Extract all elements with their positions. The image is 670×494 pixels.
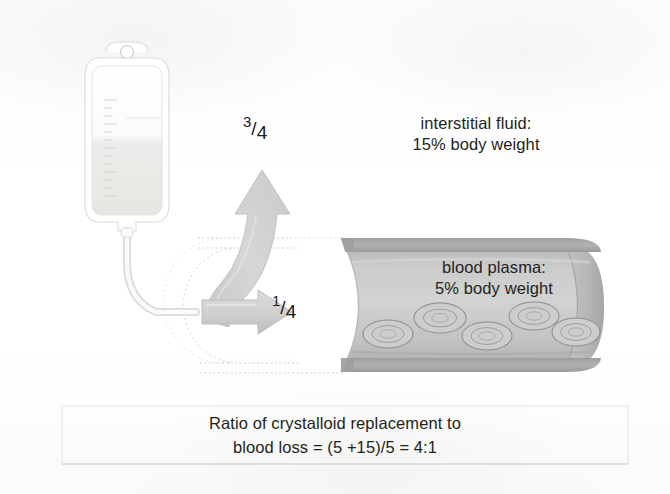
blood-plasma-label: blood plasma: 5% body weight <box>388 257 600 300</box>
fraction-three-quarters: 3/4 <box>243 113 267 144</box>
red-blood-cell <box>462 322 512 350</box>
fraction-denominator: 4 <box>286 301 297 322</box>
red-blood-cell <box>363 320 413 348</box>
red-blood-cell <box>552 318 600 346</box>
fraction-one-quarter: 1/4 <box>272 292 296 323</box>
red-blood-cell <box>509 302 559 330</box>
interstitial-fluid-label: interstitial fluid: 15% body weight <box>352 113 600 156</box>
iv-tubing <box>121 228 196 312</box>
iv-fluid-bag <box>85 42 169 231</box>
caption-label: Ratio of crystalloid replacement to bloo… <box>95 412 575 460</box>
red-blood-cell <box>414 303 466 333</box>
fraction-denominator: 4 <box>257 122 268 143</box>
medical-diagram-figure: interstitial fluid: 15% body weight bloo… <box>0 0 670 494</box>
